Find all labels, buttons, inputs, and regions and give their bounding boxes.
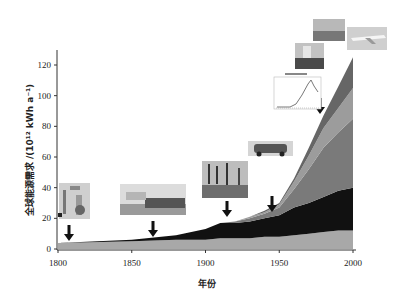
y-tick-label: 100 xyxy=(38,91,52,101)
x-tick-label: 1800 xyxy=(49,258,68,268)
landscape-image xyxy=(313,19,345,41)
y-tick-label: 40 xyxy=(42,183,52,193)
y-ticks: 020406080100120 xyxy=(38,60,58,254)
oil-platform-image xyxy=(295,43,324,69)
x-tick-label: 1850 xyxy=(123,258,142,268)
ship-image xyxy=(120,184,186,215)
y-tick-label: 60 xyxy=(42,152,52,162)
x-axis-title: 年份 xyxy=(198,278,217,289)
arrow-icon xyxy=(148,221,158,237)
x-tick-label: 1950 xyxy=(270,258,289,268)
x-tick-label: 1900 xyxy=(197,258,216,268)
x-tick-label: 2000 xyxy=(344,258,363,268)
y-tick-label: 0 xyxy=(47,244,52,254)
airplane-image xyxy=(347,27,387,50)
y-tick-label: 120 xyxy=(38,60,52,70)
car-image xyxy=(248,141,293,157)
oil-peak-inset-chart xyxy=(274,73,321,109)
energy-demand-chart: 020406080100120 18001850190019502000 年份 … xyxy=(0,0,408,306)
arrow-icon xyxy=(64,225,74,241)
arrow-icon xyxy=(222,201,232,217)
x-ticks: 18001850190019502000 xyxy=(49,250,363,268)
oil-derricks-image xyxy=(202,161,248,198)
y-tick-label: 80 xyxy=(42,121,52,131)
y-tick-label: 20 xyxy=(42,213,52,223)
y-axis-title: 全球能源需求 /(10¹² kWh a⁻¹) xyxy=(24,84,35,217)
steam-engine-image xyxy=(58,183,90,219)
